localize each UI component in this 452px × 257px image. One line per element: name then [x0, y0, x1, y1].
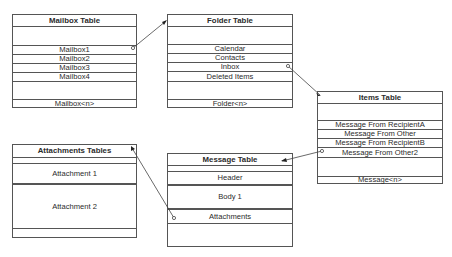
- message-table-title: Message Table: [168, 154, 292, 165]
- mailbox-table-blank-row: [13, 81, 136, 99]
- message-row-header: Header: [168, 171, 292, 184]
- mailbox-row-mailbox1: Mailbox1: [13, 45, 136, 54]
- attachments-table-blank-row: [13, 228, 136, 237]
- items-table-blank-row: [318, 103, 442, 120]
- message-table: Message Table Header Body 1 Attachments: [167, 153, 293, 247]
- attachments-table-title: Attachments Tables: [13, 145, 136, 157]
- folder-row-deleted-items: Deleted Items: [168, 71, 292, 81]
- attachments-table: Attachments Tables Attachment 1 Attachme…: [12, 144, 137, 238]
- items-row-message-from-recipienta: Message From RecipientA: [318, 120, 442, 129]
- items-row-message-n: Message<n>: [318, 176, 442, 183]
- items-row-message-from-other2: Message From Other2: [318, 147, 442, 157]
- mailbox-table-blank-row: [13, 26, 136, 45]
- folder-row-contacts: Contacts: [168, 53, 292, 62]
- items-table-blank-row: [318, 157, 442, 176]
- items-row-message-from-recipientb: Message From RecipientB: [318, 138, 442, 147]
- folder-row-inbox: Inbox: [168, 62, 292, 71]
- folder-row-folder-n: Folder<n>: [168, 99, 292, 107]
- items-table: Items Table Message From RecipientA Mess…: [317, 91, 443, 184]
- mailbox-row-mailbox4: Mailbox4: [13, 72, 136, 81]
- mailbox-row-mailbox3: Mailbox3: [13, 63, 136, 72]
- items-table-title: Items Table: [318, 92, 442, 103]
- message-row-attachments: Attachments: [168, 208, 292, 223]
- connector-mailbox-to-folder: [133, 21, 166, 48]
- mailbox-row-mailbox-n: Mailbox<n>: [13, 99, 136, 107]
- mailbox-table: Mailbox Table Mailbox1 Mailbox2 Mailbox3…: [12, 14, 137, 108]
- folder-table-title: Folder Table: [168, 15, 292, 26]
- message-row-body-1: Body 1: [168, 184, 292, 208]
- mailbox-row-mailbox2: Mailbox2: [13, 54, 136, 63]
- mailbox-table-title: Mailbox Table: [13, 15, 136, 26]
- message-table-blank-row: [168, 223, 292, 246]
- folder-table: Folder Table Calendar Contacts Inbox Del…: [167, 14, 293, 108]
- attachments-row-attachment-1: Attachment 1: [13, 163, 136, 183]
- folder-table-blank-row: [168, 81, 292, 99]
- folder-table-blank-row: [168, 26, 292, 44]
- folder-row-calendar: Calendar: [168, 44, 292, 53]
- items-row-message-from-other: Message From Other: [318, 129, 442, 138]
- attachments-row-attachment-2: Attachment 2: [13, 183, 136, 228]
